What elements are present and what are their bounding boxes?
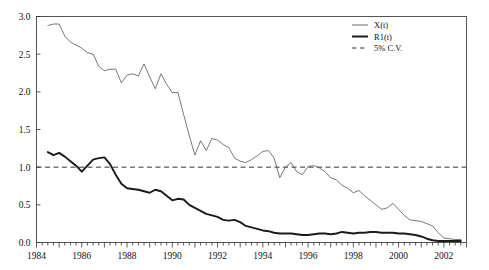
chart-container: 0.00.51.01.52.02.53.0 198419861988199019… — [0, 0, 489, 270]
y-axis-tick-labels: 0.00.51.01.52.02.53.0 — [19, 12, 31, 248]
x-axis-minor-ticks — [37, 243, 467, 248]
y-tick-label: 1.5 — [19, 125, 31, 135]
data-series — [48, 24, 461, 241]
y-tick-label: 1.0 — [19, 163, 31, 173]
legend-label: 5% C.V. — [374, 43, 402, 53]
series-line-x-t — [48, 24, 461, 239]
x-tick-label: 1996 — [299, 251, 318, 261]
x-tick-label: 1986 — [72, 251, 91, 261]
x-tick-label: 1998 — [344, 251, 363, 261]
y-tick-label: 2.5 — [19, 50, 31, 60]
x-tick-label: 2000 — [389, 251, 408, 261]
legend-label: R1(t) — [374, 32, 392, 42]
x-tick-label: 2002 — [434, 251, 453, 261]
line-chart: 0.00.51.01.52.02.53.0 198419861988199019… — [0, 0, 489, 270]
y-tick-label: 0.0 — [19, 238, 31, 248]
y-tick-label: 0.5 — [19, 200, 31, 210]
x-axis-tick-labels: 1984198619881990199219941996199820002002 — [27, 251, 454, 261]
x-tick-label: 1994 — [253, 251, 272, 261]
x-tick-label: 1990 — [163, 251, 182, 261]
x-tick-label: 1988 — [118, 251, 137, 261]
y-tick-label: 2.0 — [19, 87, 31, 97]
y-axis-tick-marks — [37, 17, 41, 243]
x-tick-label: 1992 — [208, 251, 227, 261]
legend: X(t)R1(t)5% C.V. — [352, 20, 402, 53]
x-tick-label: 1984 — [27, 251, 46, 261]
series-line-r1-t — [48, 152, 461, 241]
legend-label: X(t) — [374, 20, 388, 30]
y-tick-label: 3.0 — [19, 12, 31, 22]
